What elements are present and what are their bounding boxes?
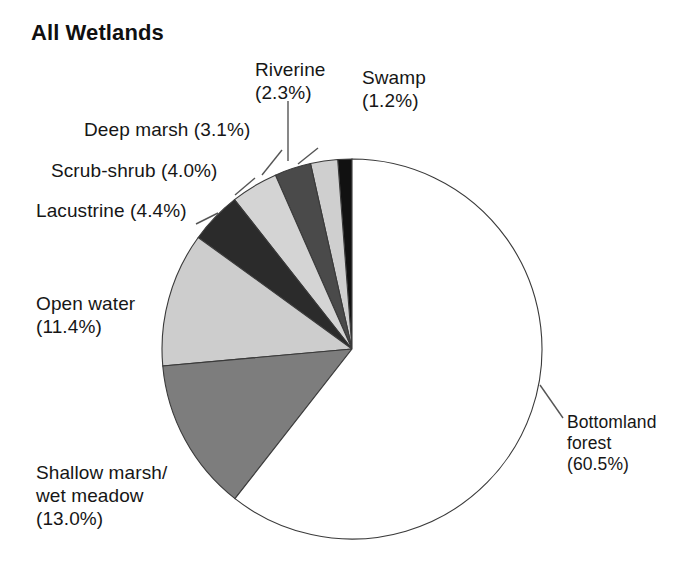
slice-label-bottomland-forest: Bottomland forest (60.5%) (567, 412, 681, 475)
slice-label-swamp: Swamp (1.2%) (362, 66, 492, 112)
slice-label-lacustrine: Lacustrine (4.4%) (36, 199, 266, 222)
slice-label-scrub-shrub: Scrub-shrub (4.0%) (51, 159, 301, 182)
slice-label-deep-marsh: Deep marsh (3.1%) (84, 118, 304, 141)
pie-chart-figure: All Wetlands Riverine (2.3%) Swamp (1.2%… (0, 0, 681, 587)
slice-label-shallow-marsh: Shallow marsh/ wet meadow (13.0%) (36, 461, 246, 530)
slice-label-open-water: Open water (11.4%) (36, 292, 216, 338)
leader-line-swamp (298, 148, 318, 164)
leader-line-bottomland-forest (540, 385, 563, 418)
